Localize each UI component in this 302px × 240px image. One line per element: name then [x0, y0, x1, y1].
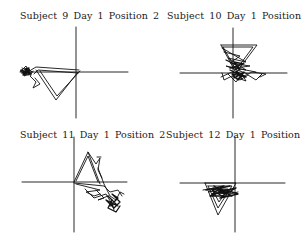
- trajectory: [74, 152, 124, 210]
- plot-subject-10: [180, 28, 287, 118]
- trajectory-plots: [0, 0, 302, 240]
- plot-subject-9: [20, 27, 128, 118]
- plot-subject-12: [180, 137, 285, 232]
- trajectory: [20, 66, 80, 100]
- plot-subject-11: [22, 137, 127, 232]
